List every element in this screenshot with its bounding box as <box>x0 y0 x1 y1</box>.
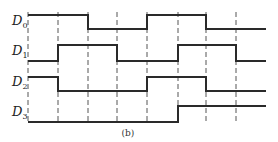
waveform-d2 <box>28 77 266 91</box>
signal-label-d2: D2 <box>11 74 28 91</box>
signal-label-d3: D3 <box>11 104 28 121</box>
signal-labels: D0D1D2D3 <box>11 13 28 121</box>
signal-label-d1: D1 <box>11 43 28 60</box>
waveform-d0 <box>28 15 266 29</box>
signal-label-d0: D0 <box>11 13 28 30</box>
timing-diagram: D0D1D2D3 (b) <box>0 0 278 142</box>
figure-caption: (b) <box>122 128 135 138</box>
